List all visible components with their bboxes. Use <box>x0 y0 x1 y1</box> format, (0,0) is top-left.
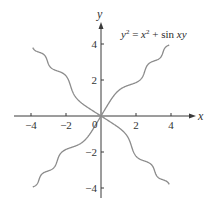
x-tick-label: 4 <box>168 119 174 131</box>
y-axis-label: y <box>96 7 103 21</box>
y-tick-label: 2 <box>92 74 98 86</box>
equation-xy: xy <box>176 28 187 40</box>
equation-equals: = <box>129 28 141 40</box>
implicit-curve-plot: −4−224−4−224 x y 0 y2 = x2 + sin xy <box>0 0 215 208</box>
x-tick-label: 2 <box>133 119 139 131</box>
equation-plus-sin: + sin <box>150 28 177 40</box>
y-tick-label: −2 <box>85 146 97 158</box>
y-tick-label: 4 <box>92 38 98 50</box>
x-axis-label: x <box>197 109 204 123</box>
equation-annotation: y2 = x2 + sin xy <box>120 28 187 40</box>
y-tick-label: −4 <box>85 182 97 194</box>
x-tick-label: −2 <box>60 119 72 131</box>
origin-label: 0 <box>92 118 98 130</box>
x-axis-arrow-icon <box>189 114 196 119</box>
y-axis-arrow-icon <box>99 22 104 29</box>
x-tick-label: −4 <box>25 119 37 131</box>
curve-branch-upper-right <box>101 45 169 116</box>
